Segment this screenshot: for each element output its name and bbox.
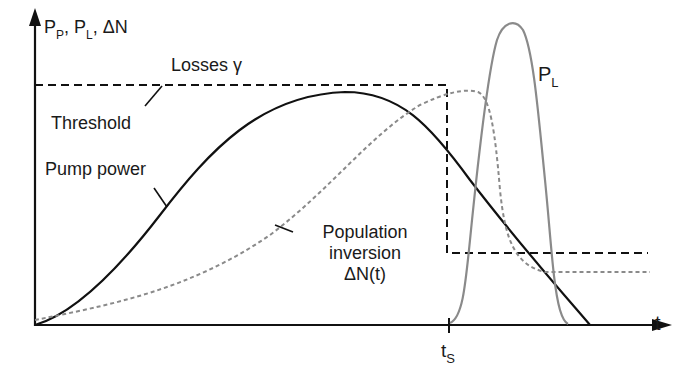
y-axis-label: PP, PL, ΔN: [44, 18, 128, 36]
population-line2: inversion: [300, 244, 430, 262]
population-line1: Population: [300, 223, 430, 241]
x-axis-label: t: [655, 313, 661, 333]
losses-label: Losses γ: [171, 56, 242, 74]
laser-pulse-label: PL: [538, 64, 559, 84]
diagram-canvas: [0, 0, 685, 373]
population-line3: ΔN(t): [300, 265, 430, 283]
threshold-pointer: [145, 86, 162, 106]
pump-pointer: [154, 188, 167, 207]
population-inversion-label: Population inversion ΔN(t): [300, 223, 430, 283]
pump-power-label: Pump power: [45, 160, 146, 178]
y-axis-arrow-icon: [29, 8, 41, 26]
threshold-label: Threshold: [51, 114, 131, 132]
ts-tick-label: tS: [441, 341, 455, 360]
